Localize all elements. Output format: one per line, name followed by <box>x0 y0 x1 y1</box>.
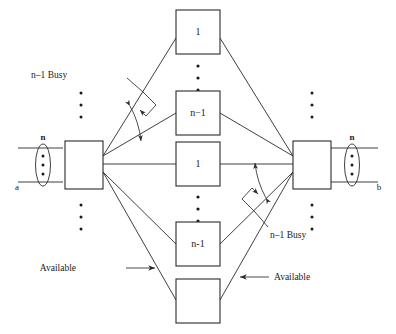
busy-left-bracket <box>143 92 156 116</box>
busy-right-label: n–1 Busy <box>270 230 306 240</box>
left-endpoint-label: a <box>15 182 19 192</box>
left-switch-box <box>65 141 103 189</box>
right-switch-dots-above <box>311 92 314 119</box>
middle-box-1-label: 1 <box>196 26 201 37</box>
right-switch-dots-below <box>311 204 314 231</box>
middle-dots-upper <box>196 64 199 91</box>
available-left-label: Available <box>40 263 76 273</box>
middle-box-n-minus-1-lower-label: n-1 <box>191 238 204 249</box>
right-switch-box <box>293 141 331 189</box>
left-switch-dots-below <box>80 204 83 231</box>
busy-left-leader <box>127 78 143 92</box>
left-trunk <box>18 144 63 186</box>
diagram-canvas: n a n b <box>0 0 396 334</box>
available-right-label: Available <box>274 272 310 282</box>
middle-dots-lower <box>196 195 199 222</box>
busy-left-arc <box>130 106 141 141</box>
busy-right-arrowhead-link <box>252 188 258 194</box>
middle-box-n-minus-1-upper-label: n−1 <box>190 107 206 118</box>
right-endpoint-label: b <box>377 182 382 192</box>
middle-box-1-center-label: 1 <box>196 158 201 169</box>
right-trunk <box>331 144 378 186</box>
busy-left-label: n–1 Busy <box>31 70 67 80</box>
middle-box-empty-bottom <box>176 279 220 323</box>
switching-network-diagram: n a n b <box>0 0 396 334</box>
busy-left-arrowhead-link <box>140 110 146 116</box>
left-trunk-label: n <box>40 132 45 142</box>
left-switch-dots-above <box>80 92 83 119</box>
right-trunk-label: n <box>349 132 354 142</box>
busy-right-bracket <box>242 188 255 212</box>
